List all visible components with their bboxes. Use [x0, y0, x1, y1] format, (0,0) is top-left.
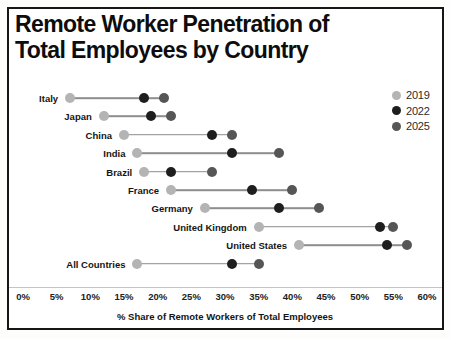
x-tick-label: 60%: [417, 291, 436, 302]
data-dot-2025: [287, 185, 297, 195]
legend-dot-icon: [392, 122, 401, 131]
data-dot-2019: [132, 148, 142, 158]
data-dot-2025: [254, 259, 264, 269]
x-tick-label: 30%: [215, 291, 234, 302]
dumbbell-line: [137, 152, 278, 154]
data-dot-2025: [274, 148, 284, 158]
category-label: China: [86, 129, 112, 140]
x-tick-label: 5%: [50, 291, 64, 302]
category-label: India: [103, 148, 125, 159]
dumbbell-line: [171, 189, 292, 191]
x-tick-label: 35%: [249, 291, 268, 302]
data-dot-2019: [65, 93, 75, 103]
dumbbell-line: [259, 226, 394, 228]
data-dot-2022: [207, 130, 217, 140]
category-label: Brazil: [106, 166, 132, 177]
legend-dot-icon: [392, 106, 401, 115]
data-dot-2025: [388, 222, 398, 232]
data-dot-2022: [146, 111, 156, 121]
data-dot-2019: [294, 240, 304, 250]
x-tick-label: 50%: [350, 291, 369, 302]
category-label: United States: [226, 240, 287, 251]
category-label: All Countries: [66, 258, 125, 269]
category-label: France: [128, 185, 159, 196]
x-tick-label: 45%: [316, 291, 335, 302]
data-dot-2022: [139, 93, 149, 103]
category-label: Germany: [152, 203, 193, 214]
data-dot-2019: [132, 259, 142, 269]
x-tick-label: 55%: [384, 291, 403, 302]
data-dot-2019: [139, 167, 149, 177]
x-tick-label: 0%: [16, 291, 30, 302]
data-dot-2022: [274, 203, 284, 213]
data-dot-2019: [99, 111, 109, 121]
data-dot-2022: [247, 185, 257, 195]
data-dot-2019: [254, 222, 264, 232]
legend-dot-icon: [392, 91, 401, 100]
dumbbell-line: [104, 116, 171, 118]
x-tick-label: 15%: [114, 291, 133, 302]
legend-item-2019: 2019: [392, 89, 430, 101]
data-dot-2022: [375, 222, 385, 232]
data-dot-2025: [402, 240, 412, 250]
x-tick-label: 20%: [148, 291, 167, 302]
chart-title-line1: Remote Worker Penetration of: [15, 11, 439, 37]
legend-label: 2025: [406, 120, 430, 132]
data-dot-2022: [382, 240, 392, 250]
remote-work-chart: Remote Worker Penetration of Total Emplo…: [0, 0, 450, 339]
data-dot-2022: [227, 259, 237, 269]
data-dot-2025: [166, 111, 176, 121]
dumbbell-line: [70, 97, 164, 99]
data-dot-2025: [207, 167, 217, 177]
chart-title: Remote Worker Penetration of Total Emplo…: [15, 11, 439, 63]
x-tick-label: 10%: [81, 291, 100, 302]
data-dot-2019: [166, 185, 176, 195]
x-axis-line: [9, 287, 442, 288]
dumbbell-line: [144, 171, 211, 173]
data-dot-2019: [200, 203, 210, 213]
chart-title-line2: Total Employees by Country: [15, 37, 439, 63]
legend-label: 2019: [406, 89, 430, 101]
dumbbell-line: [137, 263, 258, 265]
category-label: United Kingdom: [173, 221, 246, 232]
x-tick-label: 25%: [182, 291, 201, 302]
category-label: Japan: [64, 111, 91, 122]
legend-label: 2022: [406, 105, 430, 117]
x-axis-label: % Share of Remote Workers of Total Emplo…: [117, 311, 333, 322]
category-label: Italy: [39, 93, 58, 104]
data-dot-2025: [314, 203, 324, 213]
data-dot-2019: [119, 130, 129, 140]
legend-item-2022: 2022: [392, 105, 430, 117]
x-tick-label: 40%: [283, 291, 302, 302]
data-dot-2025: [227, 130, 237, 140]
data-dot-2025: [159, 93, 169, 103]
legend-item-2025: 2025: [392, 120, 430, 132]
dumbbell-line: [205, 208, 319, 210]
data-dot-2022: [166, 167, 176, 177]
data-dot-2022: [227, 148, 237, 158]
